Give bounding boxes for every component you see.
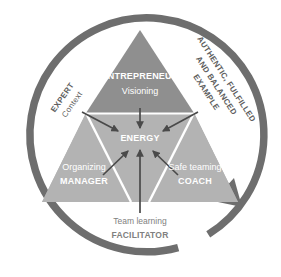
label-facilitator-activity: Team learning [113,216,167,226]
label-entrepreneur-role: ENTREPRENEUR [102,71,179,81]
label-coach-role: COACH [178,176,212,186]
label-entrepreneur-activity: Visioning [122,86,158,96]
leadership-triangle-diagram: ENTREPRENEUR Visioning ENERGY Organizing… [0,0,281,277]
label-coach-activity: Safe teaming [168,162,221,172]
label-facilitator-role: FACILITATOR [112,230,169,240]
label-energy: ENERGY [120,133,159,143]
label-manager-role: MANAGER [60,176,108,186]
outer-label-expert: EXPERT Context [49,81,86,121]
label-manager-activity: Organizing [62,162,106,172]
diagram-canvas: ENTREPRENEUR Visioning ENERGY Organizing… [0,0,281,277]
